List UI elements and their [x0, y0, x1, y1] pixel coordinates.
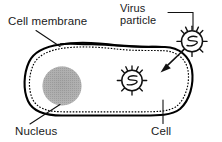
- nucleus-stipple: [43, 67, 82, 106]
- label-cell: Cell: [151, 125, 171, 137]
- virus-particle-inside-cell: [117, 66, 146, 95]
- cell-virus-diagram: Cell membrane Virus particle Nucleus Cel…: [0, 0, 222, 142]
- cell-membrane-leader: [36, 31, 60, 47]
- label-nucleus: Nucleus: [15, 125, 57, 137]
- virus-particle-leader: [168, 13, 193, 30]
- label-cell-membrane: Cell membrane: [8, 15, 87, 27]
- label-virus-particle-line2: particle: [120, 14, 156, 26]
- label-virus-particle-line1: Virus: [120, 2, 146, 14]
- nucleus-shape: [43, 67, 82, 106]
